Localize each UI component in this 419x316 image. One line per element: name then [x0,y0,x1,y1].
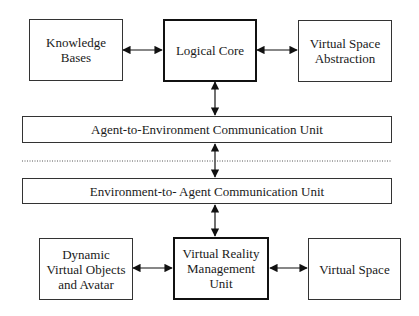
logical-core-label: Logical Core [176,43,244,58]
vr-management-label: Virtual Reality Management Unit [183,246,260,291]
logical-core-box: Logical Core [163,19,257,82]
knowledge-bases-label: Knowledge Bases [46,35,106,65]
virtual-space-box: Virtual Space [308,238,401,300]
agent-to-environment-bar: Agent-to-Environment Communication Unit [22,116,392,143]
vr-management-box: Virtual Reality Management Unit [173,237,269,300]
dynamic-objects-box: Dynamic Virtual Objects and Avatar [39,238,133,300]
virtual-space-label: Virtual Space [319,262,389,277]
knowledge-bases-box: Knowledge Bases [29,19,123,81]
environment-to-agent-bar: Environment-to- Agent Communication Unit [22,178,392,204]
dynamic-objects-label: Dynamic Virtual Objects and Avatar [46,247,125,292]
virtual-space-abstraction-box: Virtual Space Abstraction [298,20,392,82]
environment-to-agent-label: Environment-to- Agent Communication Unit [90,184,324,199]
agent-to-environment-label: Agent-to-Environment Communication Unit [91,122,323,137]
virtual-space-abstraction-label: Virtual Space Abstraction [310,36,380,66]
